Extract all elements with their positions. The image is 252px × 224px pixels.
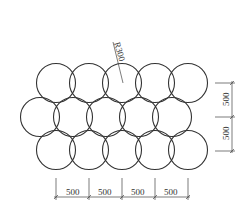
- vertical-dimension: 500 500: [215, 81, 235, 153]
- radius-label: R300: [112, 41, 127, 63]
- vertical-dim-1: 500: [221, 92, 231, 106]
- horizontal-dim-1: 500: [66, 187, 80, 197]
- horizontal-dim-3: 500: [131, 187, 145, 197]
- circle-grid: [21, 64, 208, 170]
- horizontal-dim-2: 500: [98, 187, 112, 197]
- horizontal-dimension: 500 500 500 500: [54, 178, 190, 200]
- horizontal-dim-4: 500: [164, 187, 178, 197]
- vertical-dim-2: 500: [221, 126, 231, 140]
- circle-pattern-drawing: R300 500 500 500 500 500 500: [0, 0, 252, 224]
